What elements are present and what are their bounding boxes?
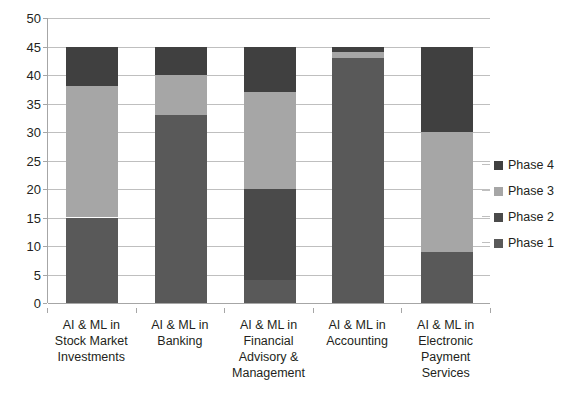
legend-label: Phase 4 <box>508 159 554 172</box>
bar-segment-phase-1[interactable] <box>244 280 296 303</box>
bar-segment-phase-1[interactable] <box>66 218 118 304</box>
x-axis-label-line: AI & ML in <box>394 317 498 333</box>
y-axis-tick-mark <box>43 303 47 304</box>
x-axis-tick-mark <box>136 308 137 313</box>
y-axis-tick-label: 25 <box>7 155 41 168</box>
y-axis-tick-mark <box>43 104 47 105</box>
y-axis-tick-mark <box>43 218 47 219</box>
y-axis-tick-mark <box>43 18 47 19</box>
bar-segment-phase-1[interactable] <box>421 252 473 303</box>
bar-segment-phase-4[interactable] <box>332 47 384 53</box>
legend-swatch-icon <box>494 213 503 222</box>
y-axis-tick-label: 15 <box>7 212 41 225</box>
legend-gridline-stub <box>482 216 490 217</box>
y-axis-tick-mark <box>43 75 47 76</box>
y-axis-tick-label: 50 <box>7 12 41 25</box>
y-axis-tick-label: 35 <box>7 98 41 111</box>
y-axis-tick-label: 5 <box>7 269 41 282</box>
y-axis-tick-label: 40 <box>7 69 41 82</box>
x-axis-label-line: Services <box>394 365 498 381</box>
bar-column[interactable] <box>155 18 207 303</box>
legend-swatch-icon <box>494 161 503 170</box>
legend-label: Phase 3 <box>508 185 554 198</box>
y-axis-tick-mark <box>43 47 47 48</box>
bar-segment-phase-3[interactable] <box>332 52 384 58</box>
bar-segment-phase-4[interactable] <box>421 47 473 133</box>
y-axis-tick-label: 30 <box>7 126 41 139</box>
legend-item[interactable]: Phase 4 <box>494 152 564 178</box>
x-axis-label-line: Payment <box>394 349 498 365</box>
x-axis-label-line: Investments <box>39 349 143 365</box>
bar-segment-phase-4[interactable] <box>155 47 207 76</box>
y-axis-tick-label: 0 <box>7 297 41 310</box>
y-axis-tick-label: 10 <box>7 240 41 253</box>
bar-column[interactable] <box>332 18 384 303</box>
x-axis-tick-mark <box>224 308 225 313</box>
x-axis-tick-mark <box>490 308 491 313</box>
legend-gridline-stub <box>482 190 490 191</box>
bar-segment-phase-1[interactable] <box>155 115 207 303</box>
y-axis-tick-mark <box>43 246 47 247</box>
legend-item[interactable]: Phase 3 <box>494 178 564 204</box>
bar-segment-phase-3[interactable] <box>155 75 207 115</box>
y-axis-tick-label: 20 <box>7 183 41 196</box>
chart-legend: Phase 4Phase 3Phase 2Phase 1 <box>494 152 564 256</box>
y-axis-tick-mark <box>43 161 47 162</box>
y-axis-tick-mark <box>43 189 47 190</box>
legend-label: Phase 1 <box>508 237 554 250</box>
x-axis-tick-mark <box>313 308 314 313</box>
bar-segment-phase-4[interactable] <box>244 47 296 93</box>
x-axis-label-line: Electronic <box>394 333 498 349</box>
legend-item[interactable]: Phase 2 <box>494 204 564 230</box>
legend-item[interactable]: Phase 1 <box>494 230 564 256</box>
gridline-0 <box>48 303 490 304</box>
x-axis-tick-mark <box>47 308 48 313</box>
x-axis-label-line: Management <box>217 365 321 381</box>
bar-segment-phase-3[interactable] <box>244 92 296 189</box>
y-axis-tick-mark <box>43 132 47 133</box>
legend-swatch-icon <box>494 239 503 248</box>
bar-segment-phase-3[interactable] <box>421 132 473 252</box>
stacked-bar-chart: 50454035302520151050 AI & ML inStock Mar… <box>0 0 567 400</box>
bar-segment-phase-1[interactable] <box>332 58 384 303</box>
y-axis-tick-label: 45 <box>7 41 41 54</box>
y-axis-tick-mark <box>43 275 47 276</box>
legend-label: Phase 2 <box>508 211 554 224</box>
bar-segment-phase-4[interactable] <box>66 47 118 87</box>
legend-gridline-stub <box>482 242 490 243</box>
bars-layer <box>48 18 490 303</box>
bar-segment-phase-3[interactable] <box>66 86 118 217</box>
x-axis-category-labels: AI & ML inStock MarketInvestmentsAI & ML… <box>47 308 490 394</box>
bar-column[interactable] <box>244 18 296 303</box>
x-axis-label-line: Advisory & <box>217 349 321 365</box>
legend-gridline-stub <box>482 164 490 165</box>
x-axis-tick-mark <box>401 308 402 313</box>
bar-segment-phase-2[interactable] <box>244 189 296 280</box>
bar-column[interactable] <box>66 18 118 303</box>
plot-area <box>47 18 490 303</box>
bar-column[interactable] <box>421 18 473 303</box>
legend-swatch-icon <box>494 187 503 196</box>
x-axis-category-label: AI & ML inElectronicPaymentServices <box>394 317 498 381</box>
